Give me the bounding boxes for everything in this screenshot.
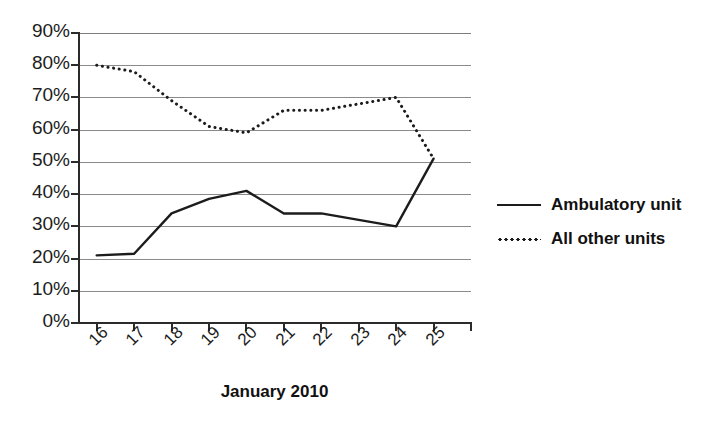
- y-axis-tick-label: 0%: [0, 310, 70, 332]
- legend-label-all-other-units: All other units: [551, 229, 665, 249]
- y-axis-tick: [71, 322, 78, 324]
- gridline: [78, 65, 471, 66]
- x-axis-tick: [470, 324, 472, 331]
- gridline: [78, 259, 471, 260]
- gridline: [78, 97, 471, 98]
- y-axis-tick-label: 10%: [0, 278, 70, 300]
- y-axis-tick: [71, 96, 78, 98]
- y-axis-tick-label: 70%: [0, 84, 70, 106]
- gridline: [78, 33, 471, 34]
- y-axis-tick: [71, 32, 78, 34]
- x-axis-tick-label: 19: [197, 323, 225, 351]
- legend-label-ambulatory-unit: Ambulatory unit: [551, 195, 681, 215]
- legend-item-all-other-units: All other units: [497, 222, 722, 256]
- chart-legend: Ambulatory unit All other units: [497, 188, 722, 256]
- x-axis-tick-label: 22: [309, 323, 337, 351]
- legend-item-ambulatory-unit: Ambulatory unit: [497, 188, 722, 222]
- y-axis-tick: [71, 64, 78, 66]
- x-axis-tick-label: 21: [272, 323, 300, 351]
- x-axis-tick-label: 17: [122, 323, 150, 351]
- y-axis-tick-label: 20%: [0, 246, 70, 268]
- gridline: [78, 162, 471, 163]
- x-axis-tick-label: 18: [160, 323, 188, 351]
- dotted-line-swatch-icon: [497, 232, 541, 246]
- x-axis-tick-label: 24: [384, 323, 412, 351]
- y-axis-tick: [71, 225, 78, 227]
- y-axis-tick: [71, 290, 78, 292]
- y-axis-tick: [71, 193, 78, 195]
- y-axis-tick-label: 80%: [0, 52, 70, 74]
- line-chart: 0%10%20%30%40%50%60%70%80%90% 1617181920…: [0, 0, 726, 425]
- x-axis-tick-label: 23: [347, 323, 375, 351]
- y-axis-tick-label: 90%: [0, 20, 70, 42]
- y-axis-tick-label: 40%: [0, 181, 70, 203]
- y-axis-tick: [71, 258, 78, 260]
- gridline: [78, 130, 471, 131]
- y-axis-tick-label: 30%: [0, 213, 70, 235]
- solid-line-swatch-icon: [497, 198, 541, 212]
- gridline: [78, 291, 471, 292]
- y-axis-tick-label: 60%: [0, 117, 70, 139]
- y-axis-tick: [71, 129, 78, 131]
- x-axis-tick-label: 20: [234, 323, 262, 351]
- gridline: [78, 194, 471, 195]
- x-axis-tick-label: 25: [422, 323, 450, 351]
- y-axis-tick-label: 50%: [0, 149, 70, 171]
- plot-area: [78, 33, 471, 323]
- x-axis-tick-label: 16: [85, 323, 113, 351]
- y-axis-line: [78, 32, 80, 324]
- y-axis-tick: [71, 161, 78, 163]
- gridline: [78, 226, 471, 227]
- x-axis-title: January 2010: [78, 382, 471, 402]
